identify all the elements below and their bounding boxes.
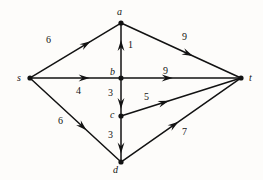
edge-line <box>123 24 238 77</box>
edge-line <box>123 79 239 160</box>
graph-node-c <box>118 113 123 118</box>
node-layer <box>27 20 243 164</box>
edge-weight-s-b: 4 <box>76 86 81 96</box>
edge-weight-s-d: 6 <box>58 116 63 126</box>
edge-line <box>123 79 238 115</box>
graph-node-b <box>118 75 123 80</box>
graph-edge-c-d <box>118 119 125 160</box>
edge-line <box>32 24 119 76</box>
graph-edge-b-c <box>118 81 125 114</box>
graph-edge-c-t <box>123 79 238 115</box>
edge-arrowhead <box>168 122 179 131</box>
edge-weight-b-a: 1 <box>128 40 133 50</box>
edge-weight-c-d: 3 <box>108 130 113 140</box>
graph-edge-s-b <box>33 75 119 82</box>
flow-network-figure: 6461993537sabcdt <box>0 0 263 180</box>
edge-weight-a-t: 9 <box>182 32 187 42</box>
node-label-t: t <box>249 73 252 83</box>
edge-weight-d-t: 7 <box>182 127 187 137</box>
edge-layer <box>32 24 239 161</box>
graph-node-t <box>238 75 243 80</box>
graph-node-s <box>27 75 32 80</box>
graph-node-a <box>118 20 123 25</box>
edge-weight-c-t: 5 <box>144 92 149 102</box>
node-label-s: s <box>17 73 21 83</box>
graph-edge-b-t <box>124 75 239 82</box>
graph-edge-b-a <box>118 26 125 76</box>
graph-node-d <box>118 159 123 164</box>
graph-canvas <box>0 0 263 180</box>
graph-edge-d-t <box>123 79 239 160</box>
graph-edge-s-a <box>32 24 119 76</box>
edge-weight-s-a: 6 <box>46 35 51 45</box>
edge-weight-b-c: 3 <box>108 88 113 98</box>
edge-weight-b-t: 9 <box>163 66 168 76</box>
graph-edge-a-t <box>123 24 238 77</box>
node-label-c: c <box>110 110 114 120</box>
node-label-b: b <box>110 67 115 77</box>
edge-arrowhead <box>79 41 90 50</box>
node-label-a: a <box>117 7 122 17</box>
node-label-d: d <box>113 165 118 175</box>
